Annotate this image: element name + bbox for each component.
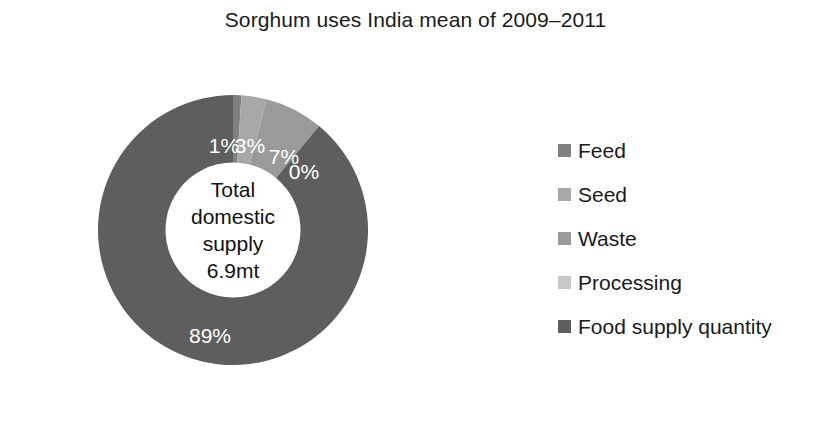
slice-value-label: 0% xyxy=(289,160,319,183)
legend-swatch-icon xyxy=(558,320,571,333)
donut-svg: 1%3%7%0%89% xyxy=(98,95,368,365)
chart-canvas: Sorghum uses India mean of 2009–2011 1%3… xyxy=(0,0,831,435)
legend-swatch-icon xyxy=(558,276,571,289)
legend-item[interactable]: Processing xyxy=(558,260,826,304)
legend-item-label: Waste xyxy=(578,228,637,249)
legend-item[interactable]: Waste xyxy=(558,216,826,260)
slice-value-label: 3% xyxy=(235,134,265,157)
legend-swatch-icon xyxy=(558,232,571,245)
donut-chart: 1%3%7%0%89% xyxy=(98,95,368,365)
legend-item-label: Seed xyxy=(578,184,627,205)
legend-item-label: Processing xyxy=(578,272,682,293)
legend-item-label: Food supply quantity xyxy=(578,316,772,337)
legend-item[interactable]: Feed xyxy=(558,128,826,172)
legend-item[interactable]: Food supply quantity xyxy=(558,304,826,348)
chart-title: Sorghum uses India mean of 2009–2011 xyxy=(0,8,831,32)
legend-swatch-icon xyxy=(558,144,571,157)
slice-value-label: 89% xyxy=(189,324,231,347)
chart-legend: FeedSeedWasteProcessingFood supply quant… xyxy=(558,128,826,348)
legend-swatch-icon xyxy=(558,188,571,201)
legend-item[interactable]: Seed xyxy=(558,172,826,216)
legend-item-label: Feed xyxy=(578,140,626,161)
